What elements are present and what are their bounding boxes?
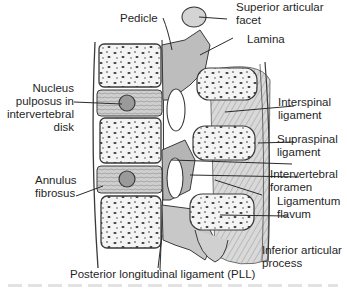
vertebral-bodies [99,44,161,248]
label-interspinal-ligament: Interspinal ligament [278,96,331,122]
label-line: ligament [278,109,331,122]
label-line: Ligamentum [277,195,340,208]
label-line: disk [7,121,74,134]
label-line: intervertebral [7,108,74,121]
label-line: Interspinal [278,96,331,109]
label-annulus-fibrosus: Annulus fibrosus [35,174,77,200]
label-line: Pedicle [120,12,158,25]
label-line: fibrosus [35,187,77,200]
label-line: Superior articular [236,1,324,14]
label-line: flavum [277,208,340,221]
anterior-edge [93,42,98,268]
label-line: Supraspinal [277,133,338,146]
label-line: Annulus [35,174,77,187]
label-superior-articular-facet: Superior articular facet [236,1,324,27]
label-line: Posterior longitudinal ligament (PLL) [70,268,255,281]
label-line: process [262,257,342,270]
label-pll: Posterior longitudinal ligament (PLL) [70,268,255,281]
caption-strip [8,284,338,287]
label-lamina: Lamina [247,33,285,46]
label-line: Inferior articular [262,244,342,257]
label-line: ligament [277,146,338,159]
label-line: pulposus in [7,95,74,108]
label-ligamentum-flavum: Ligamentum flavum [277,195,340,221]
label-pedicle: Pedicle [120,12,158,25]
label-line: foramen [270,181,338,194]
label-nucleus-pulposus: Nucleus pulposus in intervertebral disk [7,82,74,134]
label-line: Lamina [247,33,285,46]
label-line: Nucleus [7,82,74,95]
label-supraspinal-ligament: Supraspinal ligament [277,133,338,159]
label-line: Intervertebral [270,168,338,181]
label-line: facet [236,14,324,27]
label-intervertebral-foramen: Intervertebral foramen [270,168,338,194]
label-inferior-articular-process: Inferior articular process [262,244,342,270]
